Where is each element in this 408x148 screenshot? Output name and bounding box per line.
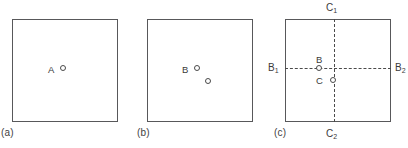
panel-b-point-marker-secondary [205,78,211,84]
panel-a-point-marker [60,65,66,71]
axis-label-B1-base: B [268,62,275,73]
panel-a-caption: (a) [1,127,14,138]
panel-b-point-label-B: B [182,65,188,75]
axis-label-B2-subscript: 2 [402,67,406,74]
panel-b-caption: (b) [137,127,150,138]
figure-container: A (a) B (b) C1 C2 B1 B2 B C (c) [0,0,408,148]
panel-c-point-label-B: B [316,55,322,65]
panel-c-axis-label-B2: B2 [395,63,406,73]
panel-c-horizontal-axis [285,68,391,69]
panel-c: C1 C2 B1 B2 B C (c) [272,0,408,148]
panel-c-vertical-axis [334,19,335,122]
panel-c-caption: (c) [274,127,286,138]
panel-c-axis-label-C1: C1 [326,3,337,13]
panel-a-point-label-A: A [48,65,54,75]
panel-c-axis-label-B1: B1 [268,63,279,73]
panel-b-frame [147,19,253,122]
panel-b-point-marker-primary [194,65,200,71]
panel-a-frame [12,19,118,122]
panel-c-frame [285,19,391,122]
axis-label-C2-subscript: 2 [333,133,337,140]
panel-a: A (a) [0,0,136,148]
panel-c-point-label-C: C [316,76,323,86]
panel-c-axis-label-C2: C2 [326,129,337,139]
axis-label-B2-base: B [395,62,402,73]
panel-c-point-marker-B [316,65,322,71]
axis-label-C1-subscript: 1 [333,7,337,14]
axis-label-B1-subscript: 1 [275,67,279,74]
panel-b: B (b) [136,0,272,148]
panel-c-point-marker-C [330,77,336,83]
